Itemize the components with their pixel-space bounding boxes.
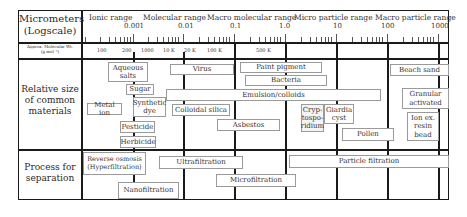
mw-10k: 10 K <box>163 47 175 53</box>
mw-1000: 1000 <box>141 47 154 53</box>
tick-1000: 1000 <box>431 22 449 30</box>
material-cryptosporidium: Cryp- tospo- ridium <box>301 104 324 132</box>
material-asbestos: Asbestos <box>217 119 280 131</box>
range-ionic: Ionic range <box>89 13 132 22</box>
material-virus: Virus <box>170 64 234 75</box>
range-macro-molecular: Macro molecular range <box>207 13 296 22</box>
material-pollen: Pollen <box>342 128 394 141</box>
process-nanofiltration: Nanofiltration <box>118 182 179 199</box>
material-giardia-cyst: Giardia cyst <box>324 104 354 124</box>
tick-100: 100 <box>381 22 394 30</box>
gridline-100 <box>387 42 389 200</box>
process-ultrafiltration: Ultrafiltration <box>159 156 243 169</box>
material-sugar: Sugar <box>126 84 154 95</box>
tick-0.001: 0.001 <box>124 22 144 30</box>
material-pesticide: Pesticide <box>120 121 155 133</box>
material-beach-sand: Beach sand <box>390 64 449 76</box>
material-colloidal-silica: Colloidal silica <box>172 104 230 116</box>
process-label: Process for separation <box>19 162 81 184</box>
range-macro-particle: Macro particle range <box>375 13 456 22</box>
mw-20k: 20 K <box>184 47 196 53</box>
material-metal-ion: Metal ion <box>87 103 122 115</box>
range-molecular: Molecular range <box>143 13 206 22</box>
material-bacteria: Bacteria <box>245 75 327 86</box>
material-herbicide: Herbicide <box>120 136 156 148</box>
mw-100k: 100 K <box>207 47 222 53</box>
material-aqueous-salts: Aqueous salts <box>108 62 148 82</box>
mw-label: Approx. Molecular Wt. (g mol⁻¹) <box>19 45 81 55</box>
process-reverse-osmosis: Reverse osmosis (Hyperfiltration) <box>83 152 146 175</box>
process-microfiltration: Microfiltration <box>216 174 296 187</box>
range-micro-particle: Micro particle range <box>294 13 373 22</box>
tick-0.01: 0.01 <box>178 22 194 30</box>
material-granular-activated: Granular activated <box>402 88 449 109</box>
process-particle-filtration: Particle filtration <box>289 155 449 168</box>
mw-200: 200 <box>122 47 132 53</box>
materials-label: Relative size of common materials <box>19 84 81 116</box>
scale-label: Micrometers (Logscale) <box>19 13 81 37</box>
log-scale-ticks <box>82 33 449 42</box>
material-ion-exchange-resin-bead: Ion ex. resin bead <box>407 112 439 141</box>
mw-500k: 500 K <box>256 47 271 53</box>
material-emulsion-colloids: Emulsion/colloids <box>166 89 381 101</box>
material-paint-pigment: Paint pigment <box>240 62 322 73</box>
tick-10: 10 <box>333 22 342 30</box>
tick-0.1: 0.1 <box>230 22 241 30</box>
tick-1.0: 1.0 <box>279 22 290 30</box>
mw-100: 100 <box>97 47 107 53</box>
material-synthetic-dye: Synthetic dye <box>133 97 166 117</box>
